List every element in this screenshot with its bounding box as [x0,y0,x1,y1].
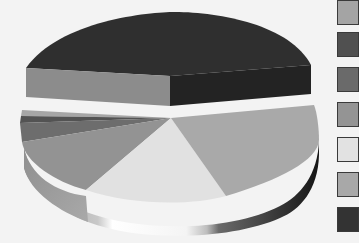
legend-swatch [337,102,359,127]
legend-swatch [337,0,359,25]
pie-slices-lower [20,105,319,203]
slice-top-face [26,12,311,76]
legend-swatch [337,172,359,197]
pie-slice-exploded [26,12,311,106]
legend-swatch [337,207,359,232]
legend-swatch [337,32,359,57]
legend-swatch [337,67,359,92]
pie-chart [0,0,330,243]
legend-swatch [337,137,359,162]
